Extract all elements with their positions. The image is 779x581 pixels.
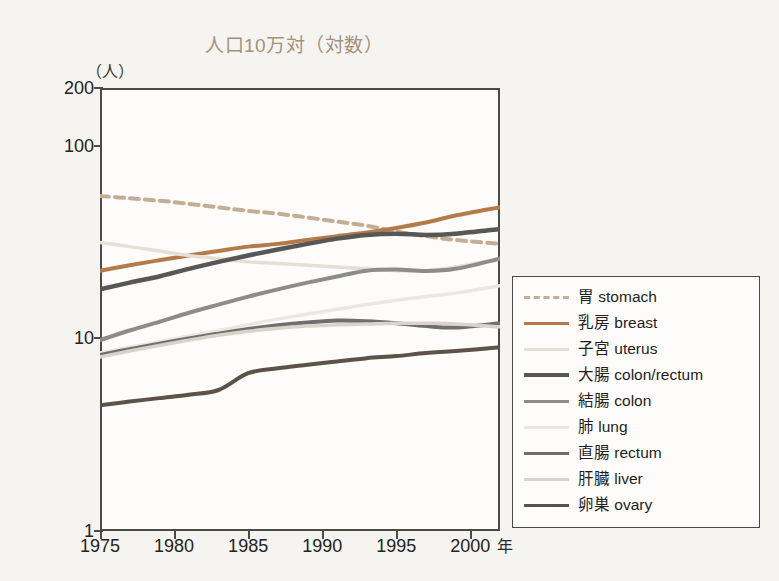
legend-item[interactable]: 直腸 rectum	[513, 440, 759, 466]
x-tick-label: 1995	[376, 536, 416, 557]
legend-item[interactable]: 卵巣 ovary	[513, 492, 759, 518]
x-tick-label: 1990	[302, 536, 342, 557]
legend-label: 胃 stomach	[578, 289, 657, 305]
x-tick-label: 1980	[154, 536, 194, 557]
legend-label: 乳房 breast	[578, 315, 657, 331]
x-tick-label: 1975	[80, 536, 120, 557]
legend-label: 肝臓 liver	[578, 471, 643, 487]
chart-lines	[100, 88, 500, 531]
series-line	[100, 347, 500, 405]
x-axis-tick-labels: 197519801985199019952000	[0, 536, 779, 564]
legend-swatch	[524, 452, 569, 455]
legend-swatch	[524, 373, 569, 377]
chart-figure: 人口10万対（対数） （人） 年 200100101 1975198019851…	[0, 0, 779, 581]
legend-label: 結腸 colon	[578, 393, 651, 409]
legend-label: 大腸 colon/rectum	[578, 367, 703, 383]
legend-item[interactable]: 胃 stomach	[513, 284, 759, 310]
legend-swatch	[524, 504, 569, 507]
legend-label: 卵巣 ovary	[578, 497, 652, 513]
legend-item[interactable]: 結腸 colon	[513, 388, 759, 414]
legend-item[interactable]: 子宮 uterus	[513, 336, 759, 362]
legend-swatch	[524, 322, 569, 325]
legend-swatch	[524, 296, 569, 299]
legend-swatch	[524, 400, 569, 403]
legend-label: 肺 lung	[578, 419, 628, 435]
x-tick-label: 1985	[228, 536, 268, 557]
legend-item[interactable]: 乳房 breast	[513, 310, 759, 336]
plot-area	[100, 88, 500, 531]
chart-title: 人口10万対（対数）	[205, 30, 383, 57]
legend-swatch	[524, 478, 569, 481]
y-axis-tick-marks	[0, 88, 110, 531]
legend-swatch	[524, 426, 569, 429]
legend-item[interactable]: 大腸 colon/rectum	[513, 362, 759, 388]
legend-item[interactable]: 肺 lung	[513, 414, 759, 440]
legend-label: 子宮 uterus	[578, 341, 657, 357]
chart-legend: 胃 stomach乳房 breast子宮 uterus大腸 colon/rect…	[512, 276, 760, 528]
legend-swatch	[524, 348, 569, 351]
legend-label: 直腸 rectum	[578, 445, 662, 461]
x-tick-label: 2000	[450, 536, 490, 557]
legend-item[interactable]: 肝臓 liver	[513, 466, 759, 492]
